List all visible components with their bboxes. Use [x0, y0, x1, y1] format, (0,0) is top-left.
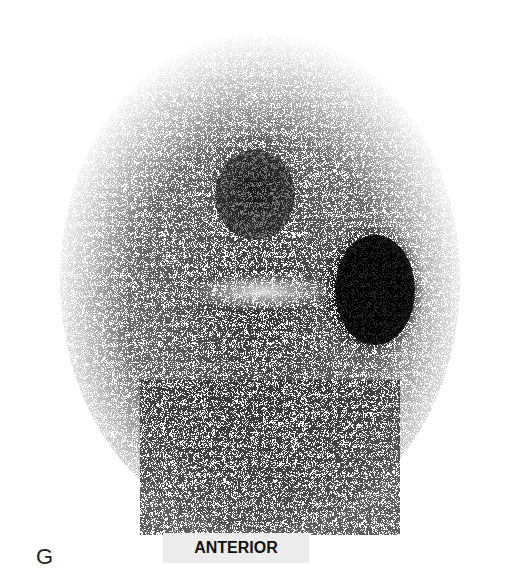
panel-letter: G — [36, 544, 53, 570]
scintigraphy-image — [0, 0, 507, 535]
view-label: ANTERIOR — [163, 533, 309, 563]
